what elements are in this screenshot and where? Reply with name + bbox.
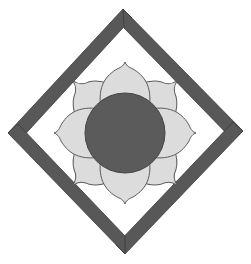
lotus-flower <box>54 62 196 204</box>
flower-center-disc <box>85 93 165 173</box>
lotus-diamond-figure <box>0 0 251 264</box>
